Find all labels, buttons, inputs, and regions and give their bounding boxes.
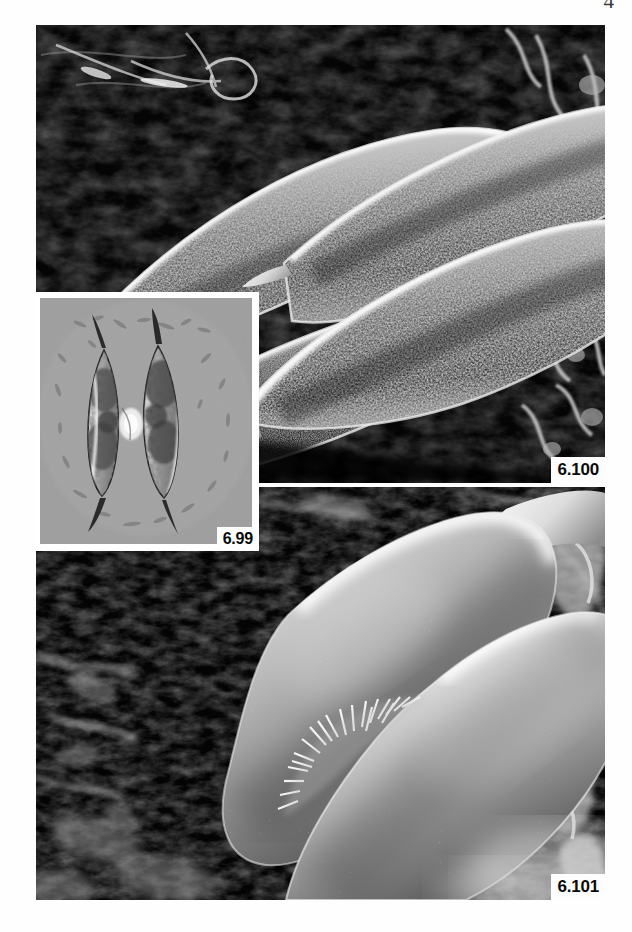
figure-label-6-100: 6.100 xyxy=(551,457,605,483)
page-canvas: 4 xyxy=(0,0,632,932)
figure-panel-6-99: 6.99 xyxy=(34,292,259,551)
figure-label-6-101: 6.101 xyxy=(551,874,605,900)
page-number: 4 xyxy=(604,0,615,12)
light-micrograph-6-99 xyxy=(40,298,252,544)
figure-label-6-99: 6.99 xyxy=(217,527,259,551)
